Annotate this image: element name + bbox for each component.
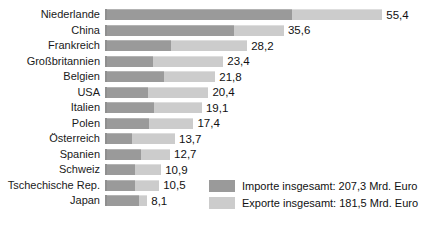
export-bar-segment xyxy=(132,133,175,144)
chart-row: Schweiz10,9 xyxy=(0,162,425,178)
import-bar-segment xyxy=(107,71,164,82)
bar-track xyxy=(105,25,284,36)
bar-track xyxy=(105,149,170,160)
import-bar-segment xyxy=(107,164,135,175)
chart-row: China35,6 xyxy=(0,23,425,39)
import-bar-segment xyxy=(107,102,154,113)
category-label: China xyxy=(0,23,105,39)
import-bar-segment xyxy=(107,133,132,144)
category-label: Niederlande xyxy=(0,7,105,23)
category-label: Italien xyxy=(0,100,105,116)
category-label: Tschechische Rep. xyxy=(0,178,105,194)
chart-row: Belgien21,8 xyxy=(0,69,425,85)
total-value-label: 55,4 xyxy=(386,9,408,21)
chart-rows: Niederlande55,4China35,6Frankreich28,2Gr… xyxy=(0,7,425,209)
import-bar-segment xyxy=(107,149,141,160)
export-bar-segment xyxy=(139,195,147,206)
bar-track xyxy=(105,71,215,82)
import-bar-segment xyxy=(107,25,234,36)
total-value-label: 23,4 xyxy=(227,55,249,67)
total-value-label: 20,4 xyxy=(212,86,234,98)
category-label: Spanien xyxy=(0,147,105,163)
import-bar-segment xyxy=(107,87,148,98)
export-bar-segment xyxy=(234,25,284,36)
chart-row: Großbritannien23,4 xyxy=(0,54,425,70)
total-value-label: 12,7 xyxy=(174,148,196,160)
bar-track xyxy=(105,180,159,191)
total-value-label: 10,5 xyxy=(163,179,185,191)
category-label: Österreich xyxy=(0,131,105,147)
bar-track xyxy=(105,56,223,67)
total-value-label: 17,4 xyxy=(197,117,219,129)
bar-track xyxy=(105,133,175,144)
bar-track xyxy=(105,9,382,20)
bar-track xyxy=(105,164,161,175)
total-value-label: 28,2 xyxy=(251,40,273,52)
total-value-label: 8,1 xyxy=(151,195,167,207)
export-bar-segment xyxy=(153,56,223,67)
importe-swatch-icon xyxy=(209,180,235,192)
exporte-swatch-icon xyxy=(209,197,235,209)
category-label: Schweiz xyxy=(0,162,105,178)
total-value-label: 10,9 xyxy=(165,164,187,176)
trade-bar-chart: Niederlande55,4China35,6Frankreich28,2Gr… xyxy=(0,0,425,227)
export-bar-segment xyxy=(164,71,215,82)
chart-row: Österreich13,7 xyxy=(0,131,425,147)
chart-row: Frankreich28,2 xyxy=(0,38,425,54)
export-bar-segment xyxy=(292,9,382,20)
import-bar-segment xyxy=(107,195,139,206)
chart-row: Spanien12,7 xyxy=(0,147,425,163)
bar-track xyxy=(105,195,147,206)
chart-legend: Importe insgesamt: 207,3 Mrd. Euro Expor… xyxy=(209,180,418,209)
import-bar-segment xyxy=(107,180,135,191)
chart-row: Italien19,1 xyxy=(0,100,425,116)
chart-row: USA20,4 xyxy=(0,85,425,101)
chart-row: Niederlande55,4 xyxy=(0,7,425,23)
legend-label-exporte: Exporte insgesamt: 181,5 Mrd. Euro xyxy=(242,197,418,209)
legend-item-importe: Importe insgesamt: 207,3 Mrd. Euro xyxy=(209,180,418,192)
export-bar-segment xyxy=(148,87,209,98)
category-label: Belgien xyxy=(0,69,105,85)
legend-label-importe: Importe insgesamt: 207,3 Mrd. Euro xyxy=(242,180,417,192)
category-label: Polen xyxy=(0,116,105,132)
import-bar-segment xyxy=(107,40,171,51)
legend-item-exporte: Exporte insgesamt: 181,5 Mrd. Euro xyxy=(209,197,418,209)
export-bar-segment xyxy=(154,102,202,113)
export-bar-segment xyxy=(135,164,161,175)
bar-track xyxy=(105,118,193,129)
export-bar-segment xyxy=(141,149,170,160)
bar-track xyxy=(105,102,202,113)
export-bar-segment xyxy=(171,40,247,51)
category-label: Frankreich xyxy=(0,38,105,54)
import-bar-segment xyxy=(107,118,149,129)
import-bar-segment xyxy=(107,56,153,67)
category-label: Großbritannien xyxy=(0,54,105,70)
category-label: USA xyxy=(0,85,105,101)
export-bar-segment xyxy=(149,118,194,129)
bar-track xyxy=(105,87,208,98)
total-value-label: 19,1 xyxy=(206,102,228,114)
chart-row: Polen17,4 xyxy=(0,116,425,132)
total-value-label: 13,7 xyxy=(179,133,201,145)
export-bar-segment xyxy=(135,180,159,191)
bar-track xyxy=(105,40,247,51)
category-label: Japan xyxy=(0,193,105,209)
total-value-label: 35,6 xyxy=(288,24,310,36)
import-bar-segment xyxy=(107,9,292,20)
total-value-label: 21,8 xyxy=(219,71,241,83)
